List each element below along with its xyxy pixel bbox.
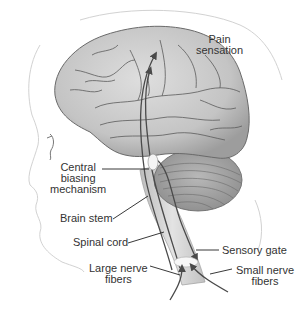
pain-gate-diagram: Pain sensation Central biasing mechanism… [0, 0, 302, 310]
cerebellum [154, 149, 242, 211]
label-small-nerve-fibers: Small nerve fibers [236, 265, 294, 287]
label-large-nerve-fibers: Large nerve fibers [89, 263, 148, 285]
label-central-biasing-mechanism: Central biasing mechanism [50, 162, 106, 195]
label-pain-sensation: Pain sensation [196, 34, 243, 56]
label-brain-stem: Brain stem [60, 213, 113, 224]
central-biasing-spot [148, 154, 158, 170]
label-spinal-cord: Spinal cord [73, 237, 128, 248]
label-sensory-gate: Sensory gate [222, 245, 287, 256]
sensory-gate-spot [174, 257, 198, 267]
ear-icon [47, 134, 54, 160]
